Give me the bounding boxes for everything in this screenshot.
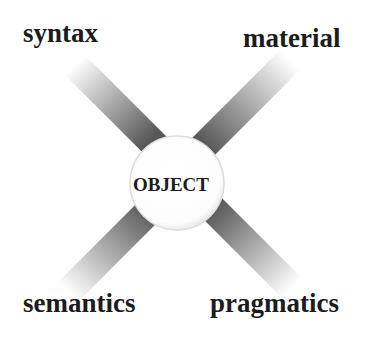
label-pragmatics: pragmatics xyxy=(210,290,339,317)
bar-top-left xyxy=(75,65,157,147)
bar-bottom-right xyxy=(206,202,292,288)
label-syntax: syntax xyxy=(23,20,98,47)
label-material: material xyxy=(243,25,340,52)
label-semantics: semantics xyxy=(23,290,135,317)
label-object: OBJECT xyxy=(133,175,209,194)
bar-top-right xyxy=(200,60,290,150)
object-diagram: syntax material OBJECT semantics pragmat… xyxy=(0,0,371,344)
bar-bottom-left xyxy=(68,208,152,292)
